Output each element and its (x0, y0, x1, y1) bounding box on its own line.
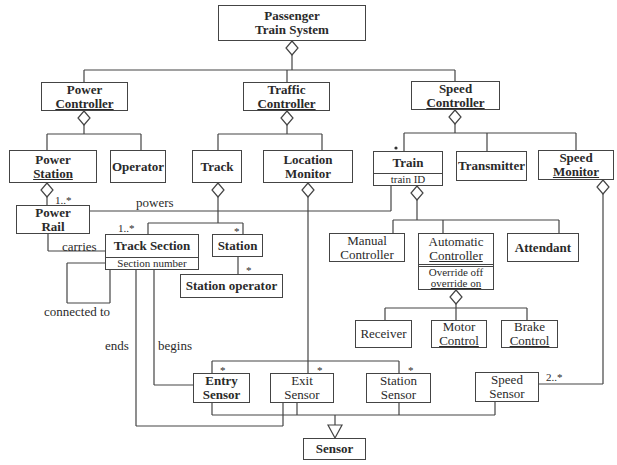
class-automatic-controller[interactable]: Automatic Controller Override off overri… (418, 233, 494, 290)
class-name-line1: Motor (443, 320, 476, 334)
association-label-carries: carries (62, 239, 97, 255)
multiplicity-station: * (234, 225, 240, 237)
class-brake-control[interactable]: Brake Control (501, 320, 558, 348)
multiplicity-track-section: 1..* (118, 222, 135, 234)
class-name: Station operator (186, 279, 277, 293)
class-name-line2: Train System (255, 23, 329, 37)
class-name-line1: Speed (491, 373, 523, 387)
class-name: Sensor (316, 442, 354, 456)
class-transmitter[interactable]: Transmitter (456, 151, 527, 181)
class-name-line2: Rail (41, 220, 64, 234)
class-passenger-train-system[interactable]: Passenger Train System (218, 5, 366, 41)
class-power-station[interactable]: Power Station (9, 150, 97, 183)
class-speed-controller[interactable]: Speed Controller (411, 81, 500, 110)
class-name: Transmitter (458, 159, 525, 173)
class-name-line1: Power (35, 206, 70, 220)
class-name: Track Section (112, 235, 193, 257)
class-name-line2: Controller (429, 249, 482, 263)
class-name-line1: Brake (514, 320, 545, 334)
class-name-line2: Sensor (203, 388, 241, 402)
class-operator[interactable]: Operator (110, 150, 166, 183)
class-name: Receiver (360, 327, 406, 341)
class-train[interactable]: Train train ID (373, 151, 443, 186)
class-name-line1: Entry (205, 374, 238, 388)
class-attribute: train ID (374, 173, 442, 185)
aggregation-diamond (286, 41, 298, 55)
class-name-line2: Sensor (489, 387, 524, 401)
class-name-line2: Controller (426, 96, 484, 110)
class-name-line1: Passenger (264, 9, 320, 23)
association-label-ends: ends (105, 338, 129, 354)
class-speed-monitor[interactable]: Speed Monitor (538, 150, 614, 180)
class-station-operator[interactable]: Station operator (180, 274, 283, 298)
class-name-line2: Monitor (553, 165, 599, 179)
class-motor-control[interactable]: Motor Control (431, 320, 487, 348)
class-name-line2: Control (439, 334, 479, 348)
class-name-line2: Controller (257, 97, 315, 111)
class-name-line2: Sensor (381, 388, 416, 402)
class-name-line1: Power (35, 153, 70, 167)
class-name-line2: Controller (340, 248, 393, 262)
association-label-powers: powers (136, 195, 174, 211)
class-power-controller[interactable]: Power Controller (41, 82, 128, 111)
class-name-line1: Traffic (267, 83, 305, 97)
class-exit-sensor[interactable]: Exit Sensor (270, 373, 334, 403)
class-traffic-controller[interactable]: Traffic Controller (243, 82, 330, 111)
class-speed-sensor[interactable]: Speed Sensor (475, 372, 539, 402)
multiplicity-exit-sensor: * (317, 364, 323, 376)
class-name-line1: Speed (439, 82, 472, 96)
generalization-arrow (328, 425, 342, 438)
class-name-line2: Controller (55, 97, 113, 111)
class-name: Train (391, 152, 426, 173)
class-name-line1: Location (283, 153, 332, 167)
association-label-begins: begins (158, 338, 192, 354)
class-attribute: Section number (106, 257, 198, 269)
class-track-section[interactable]: Track Section Section number (105, 234, 199, 270)
class-name: Attendant (515, 241, 571, 255)
class-station-sensor[interactable]: Station Sensor (366, 373, 431, 403)
class-name: Operator (112, 160, 164, 174)
class-name-line2: Sensor (284, 388, 319, 402)
class-power-rail[interactable]: Power Rail (16, 205, 90, 234)
class-name: Station (218, 239, 258, 253)
class-name-line1: Power (67, 83, 102, 97)
class-manual-controller[interactable]: Manual Controller (329, 233, 405, 262)
multiplicity-station-sensor: * (408, 364, 414, 376)
class-name-line2: Station (33, 167, 73, 181)
class-location-monitor[interactable]: Location Monitor (263, 150, 353, 183)
class-name-line2: Control (510, 334, 550, 348)
class-name-line1: Manual (347, 234, 387, 248)
multiplicity-speed-sensor: 2..* (546, 371, 563, 383)
association-label-connected-to: connected to (44, 304, 110, 320)
class-receiver[interactable]: Receiver (355, 320, 412, 348)
class-name-line1: Station (380, 374, 417, 388)
class-station[interactable]: Station (212, 234, 263, 257)
class-name-line1: Speed (559, 151, 592, 165)
class-track[interactable]: Track (192, 150, 242, 183)
class-attribute-override-on: override on (419, 278, 493, 289)
class-name-line1: Exit (291, 374, 313, 388)
class-attendant[interactable]: Attendant (507, 233, 579, 262)
class-sensor[interactable]: Sensor (303, 438, 366, 460)
class-name-line2: Monitor (285, 167, 331, 181)
class-attribute-override-off: Override off (419, 264, 493, 278)
multiplicity-entry-sensor: * (220, 364, 226, 376)
multiplicity-station-operator: * (246, 264, 252, 276)
class-name-line1: Automatic (429, 235, 484, 249)
class-entry-sensor[interactable]: Entry Sensor (193, 373, 250, 403)
multiplicity-power-rail: 1..* (55, 194, 72, 206)
class-name: Track (201, 160, 234, 174)
